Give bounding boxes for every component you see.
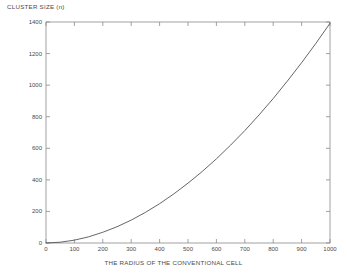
x-tick-label: 500 (183, 246, 193, 252)
x-tick-label: 300 (126, 246, 136, 252)
data-series-line (46, 23, 330, 243)
x-axis-label: THE RADIUS OF THE CONVENTIONAL CELL (0, 259, 347, 266)
y-tick-label: 1400 (0, 19, 42, 25)
chart-figure: CLUSTER SIZE (n) 02004006008001000120014… (0, 0, 347, 278)
x-tick-label: 0 (44, 246, 47, 252)
y-tick-label: 1200 (0, 51, 42, 57)
x-tick-label: 700 (240, 246, 250, 252)
x-tick-label: 100 (69, 246, 79, 252)
x-tick-label: 900 (297, 246, 307, 252)
x-tick-label: 800 (268, 246, 278, 252)
x-tick-label: 600 (211, 246, 221, 252)
y-tick-label: 200 (0, 208, 42, 214)
y-tick-label: 0 (0, 240, 42, 246)
x-tick-label: 400 (155, 246, 165, 252)
x-tick-label: 1000 (323, 246, 336, 252)
plot-box (46, 22, 330, 243)
y-tick-label: 1000 (0, 82, 42, 88)
chart-axes (0, 0, 347, 278)
y-tick-label: 600 (0, 145, 42, 151)
y-tick-label: 400 (0, 177, 42, 183)
x-tick-label: 200 (98, 246, 108, 252)
y-tick-label: 800 (0, 114, 42, 120)
